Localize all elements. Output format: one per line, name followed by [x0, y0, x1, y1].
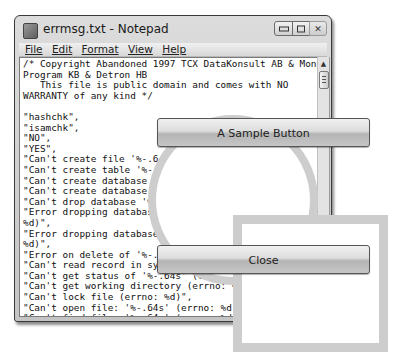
- window-title: errmsg.txt - Notepad: [43, 22, 169, 36]
- maximize-button[interactable]: [292, 21, 310, 36]
- menu-format[interactable]: Format: [82, 43, 119, 56]
- scroll-up-arrow-icon[interactable]: ▲: [318, 59, 329, 69]
- menu-help[interactable]: Help: [162, 43, 186, 56]
- close-icon: ✕: [314, 24, 322, 33]
- title-bar[interactable]: errmsg.txt - Notepad ✕: [15, 16, 331, 42]
- menu-view-label: View: [128, 43, 153, 55]
- close-window-button[interactable]: ✕: [309, 21, 327, 36]
- scrollbar-thumb[interactable]: [319, 71, 329, 89]
- menu-view[interactable]: View: [128, 43, 153, 56]
- minimize-button[interactable]: [274, 21, 293, 36]
- grip-line: [322, 79, 326, 80]
- menu-help-label: Help: [162, 43, 186, 55]
- close-button[interactable]: Close: [157, 245, 370, 274]
- menu-file[interactable]: File: [25, 43, 43, 56]
- grip-line: [322, 76, 326, 77]
- square-overlay: [233, 215, 388, 352]
- menu-format-label: Format: [82, 43, 119, 55]
- menu-edit[interactable]: Edit: [52, 43, 72, 56]
- menu-bar: File Edit Format View Help: [19, 43, 327, 57]
- maximize-icon: [297, 25, 305, 32]
- menu-file-label: File: [25, 43, 43, 55]
- menu-edit-label: Edit: [52, 43, 72, 55]
- sample-button[interactable]: A Sample Button: [157, 118, 370, 147]
- notepad-app-icon[interactable]: [23, 23, 38, 39]
- grip-line: [322, 82, 326, 83]
- minimize-icon: [279, 26, 289, 31]
